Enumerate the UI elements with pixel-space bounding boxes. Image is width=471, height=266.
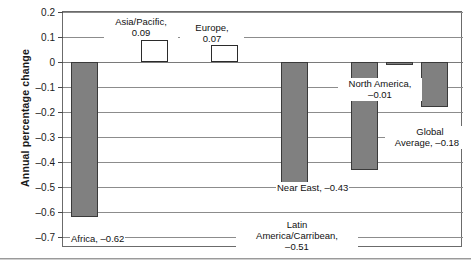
bar-global-average: [421, 62, 448, 107]
y-tick-label: 0: [49, 57, 55, 68]
data-label-europe-name: Europe,: [180, 22, 244, 34]
data-label-latin-line1: Latin: [236, 219, 358, 231]
tick-mark: [58, 62, 63, 63]
y-axis-title: Annual percentage change: [19, 23, 31, 213]
tick-mark: [58, 187, 63, 188]
bar-chart: Annual percentage change 0.2 0.1 0 –0.1 …: [0, 0, 471, 266]
figure-bottom-rule-shadow: [0, 259, 471, 260]
y-tick-label: 0.2: [41, 7, 55, 18]
gridline: [63, 162, 463, 163]
y-tick-label: –0.3: [36, 132, 55, 143]
y-tick-label: –0.5: [36, 182, 55, 193]
data-label-global-line1: Global: [393, 126, 467, 138]
data-label-north-america-value: –0.01: [338, 89, 422, 101]
gridline: [63, 212, 463, 213]
gridline: [63, 12, 463, 13]
data-label-north-america-name: North America,: [338, 78, 422, 90]
bar-africa: [71, 62, 98, 217]
tick-mark: [58, 162, 63, 163]
data-label-asia-pacific-value: 0.09: [104, 27, 178, 39]
bar-latin-america-carribean: [281, 62, 308, 190]
bar-europe: [211, 45, 238, 63]
tick-mark: [58, 137, 63, 138]
tick-mark: [58, 12, 63, 13]
y-tick-label: –0.6: [36, 207, 55, 218]
tick-mark: [58, 112, 63, 113]
y-tick-label: –0.2: [36, 107, 55, 118]
y-tick-label: –0.4: [36, 157, 55, 168]
gridline: [63, 187, 463, 188]
tick-mark: [58, 87, 63, 88]
y-tick-label: –0.7: [36, 232, 55, 243]
tick-mark: [58, 237, 63, 238]
data-label-latin-line3: –0.51: [236, 241, 358, 253]
data-label-asia-pacific-name: Asia/Pacific,: [104, 16, 178, 28]
tick-mark: [58, 212, 63, 213]
data-label-europe-value: 0.07: [180, 33, 244, 45]
tick-mark: [58, 37, 63, 38]
bar-north-america: [386, 62, 413, 65]
data-label-africa: Africa, –0.62: [70, 233, 125, 245]
data-label-latin-line2: America/Carribean,: [236, 230, 358, 242]
gridline: [63, 112, 463, 113]
data-label-global-line2: Average, –0.18: [385, 137, 469, 149]
data-label-near-east: Near East, –0.43: [276, 182, 349, 194]
bar-asia-pacific: [141, 40, 168, 63]
y-tick-label: –0.1: [36, 82, 55, 93]
y-tick-label: 0.1: [41, 32, 55, 43]
